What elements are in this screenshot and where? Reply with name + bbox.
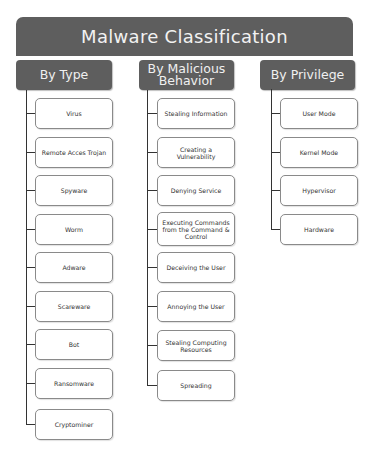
connector-line	[26, 383, 35, 384]
node-remote-access-trojan: Remote Acces Trojan	[35, 137, 113, 168]
diagram-title: Malware Classification	[16, 17, 353, 56]
node-scareware: Scareware	[35, 291, 113, 322]
node-spreading: Spreading	[157, 370, 235, 401]
connector-line	[271, 152, 280, 153]
node-stealing-computing-resources: Stealing Computing Resources	[157, 330, 235, 361]
node-kernel-mode: Kernel Mode	[280, 137, 358, 168]
connector-line	[26, 229, 35, 230]
connector-line	[26, 267, 35, 268]
node-adware: Adware	[35, 252, 113, 283]
connector-line	[26, 190, 35, 191]
connector-line	[147, 113, 157, 114]
node-annoying-user: Annoying the User	[157, 291, 235, 322]
connector-line	[271, 113, 280, 114]
node-denying-service: Denying Service	[157, 175, 235, 206]
node-virus: Virus	[35, 98, 113, 129]
node-executing-commands: Executing Commands from the Command & Co…	[157, 212, 235, 246]
connector-line	[26, 90, 27, 425]
connector-line	[147, 385, 157, 386]
category-by-malicious-behavior: By Malicious Behavior	[139, 60, 234, 90]
node-ransomware: Ransomware	[35, 368, 113, 399]
connector-line	[147, 345, 157, 346]
node-deceiving-user: Deceiving the User	[157, 252, 235, 283]
node-cryptominer: Cryptominer	[35, 409, 113, 440]
category-by-privilege: By Privilege	[260, 60, 355, 90]
connector-line	[147, 152, 157, 153]
node-spyware: Spyware	[35, 175, 113, 206]
node-user-mode: User Mode	[280, 98, 358, 129]
connector-line	[26, 306, 35, 307]
connector-line	[147, 229, 157, 230]
connector-line	[147, 306, 157, 307]
connector-line	[26, 152, 35, 153]
category-by-type: By Type	[16, 60, 112, 90]
node-creating-vulnerability: Creating a Vulnerability	[157, 137, 235, 168]
node-stealing-information: Stealing Information	[157, 98, 235, 129]
node-hardware: Hardware	[280, 214, 358, 245]
connector-line	[271, 89, 272, 229]
connector-line	[26, 113, 35, 114]
connector-line	[271, 229, 280, 230]
connector-line	[147, 190, 157, 191]
connector-line	[147, 90, 148, 386]
node-worm: Worm	[35, 214, 113, 245]
node-bot: Bot	[35, 329, 113, 360]
connector-line	[26, 424, 35, 425]
node-hypervisor: Hypervisor	[280, 175, 358, 206]
connector-line	[147, 267, 157, 268]
connector-line	[26, 344, 35, 345]
connector-line	[271, 190, 280, 191]
